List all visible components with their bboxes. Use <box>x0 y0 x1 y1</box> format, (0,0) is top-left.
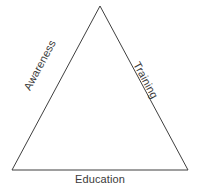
triangle-outline <box>12 6 188 170</box>
edge-label-education: Education <box>0 174 200 185</box>
triangle-diagram: Awareness Training Education <box>0 0 200 193</box>
triangle-shape <box>0 0 200 193</box>
